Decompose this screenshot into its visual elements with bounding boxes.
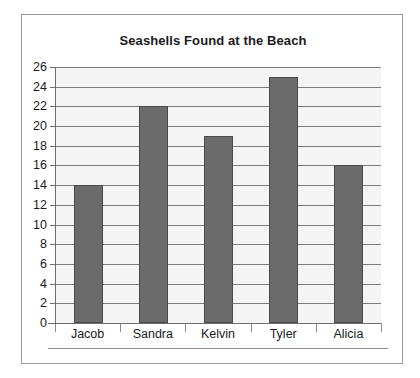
- y-axis-tick-label: 4: [17, 277, 47, 291]
- y-axis-tick-label: 8: [17, 237, 47, 251]
- x-axis-label-alicia: Alicia: [316, 327, 381, 341]
- x-axis-label-jacob: Jacob: [55, 327, 120, 341]
- plot-wrapper: 26242220181614121086420: [55, 67, 381, 323]
- bar-slot: [316, 67, 381, 323]
- bar-sandra: [139, 106, 168, 323]
- y-axis-tick-label: 26: [17, 60, 47, 74]
- x-axis-category-labels: JacobSandraKelvinTylerAlicia: [55, 327, 381, 341]
- chart-frame: Seashells Found at the Beach 26242220181…: [21, 14, 403, 364]
- plot-area: 26242220181614121086420: [55, 67, 381, 323]
- chart-title: Seashells Found at the Beach: [22, 33, 404, 48]
- y-axis-tick-label: 12: [17, 198, 47, 212]
- y-axis-tick-label: 24: [17, 80, 47, 94]
- bar-slot: [251, 67, 316, 323]
- bar-tyler: [269, 77, 298, 323]
- bar-slot: [56, 67, 121, 323]
- bar-jacob: [74, 185, 103, 323]
- x-axis-label-kelvin: Kelvin: [185, 327, 250, 341]
- y-axis-tick-label: 22: [17, 99, 47, 113]
- y-axis-tick-label: 20: [17, 119, 47, 133]
- x-axis-line: [48, 323, 381, 324]
- y-axis-tick-label: 18: [17, 139, 47, 153]
- y-axis-tick-label: 6: [17, 257, 47, 271]
- bar-alicia: [334, 165, 363, 323]
- bar-slot: [121, 67, 186, 323]
- bar-kelvin: [204, 136, 233, 323]
- bar-slot: [186, 67, 251, 323]
- y-axis-tick-label: 2: [17, 296, 47, 310]
- y-axis-tick-label: 10: [17, 218, 47, 232]
- y-axis-tick-label: 0: [17, 316, 47, 330]
- x-axis-label-sandra: Sandra: [120, 327, 185, 341]
- x-axis-label-tyler: Tyler: [251, 327, 316, 341]
- x-axis-underline: [48, 348, 388, 349]
- y-axis-tick-label: 14: [17, 178, 47, 192]
- bar-series: [56, 67, 381, 323]
- y-axis-tick-label: 16: [17, 158, 47, 172]
- x-axis-tick: [381, 323, 382, 332]
